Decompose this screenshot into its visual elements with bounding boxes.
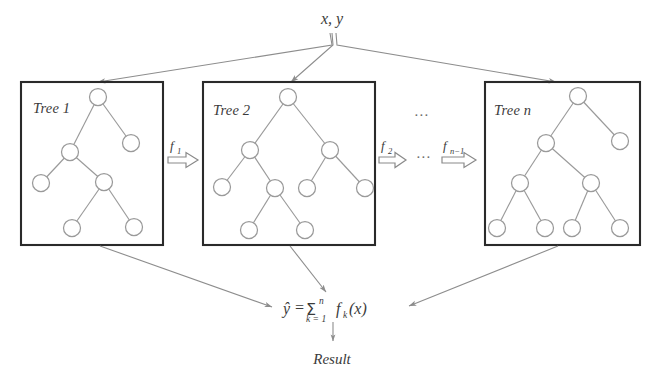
formula-term-argument: (x)	[349, 300, 367, 318]
fanin-lines	[100, 246, 558, 307]
flow-arrow-f2-subscript: 2	[388, 146, 393, 156]
tree-node	[537, 220, 554, 237]
tree-node	[267, 180, 284, 197]
tree-node	[583, 175, 600, 192]
flow-arrow-f2-base: f	[381, 138, 387, 153]
flow-arrow-fn-1: f n−1	[442, 138, 476, 168]
tree-2-label: Tree 2	[213, 102, 250, 118]
tree-node	[489, 220, 506, 237]
formula-sigma-upper: n	[319, 296, 324, 306]
formula-sigma-lower: k = 1	[306, 314, 326, 324]
formula-term-subscript: k	[343, 310, 348, 320]
tree-box-1[interactable]: Tree 1	[21, 82, 163, 245]
tree-node	[62, 144, 79, 161]
tree-node	[299, 180, 316, 197]
formula-lhs: ŷ	[281, 300, 291, 318]
tree-node	[123, 135, 140, 152]
result-label: Result	[312, 351, 351, 367]
tree-node	[280, 89, 297, 106]
tree-n-label: Tree n	[494, 102, 531, 118]
tree-node	[570, 88, 587, 105]
tree-node	[90, 89, 107, 106]
ellipsis-between-arrows: ...	[417, 145, 432, 161]
tree-node	[612, 133, 629, 150]
fanout-line-tree-1	[98, 33, 332, 82]
ellipsis-between-boxes: ...	[415, 103, 430, 119]
tree-node	[33, 175, 50, 192]
fanin-line-tree-2	[290, 246, 326, 292]
tree-node	[126, 219, 143, 236]
tree-node	[538, 135, 555, 152]
tree-node	[322, 142, 339, 159]
tree-node	[214, 179, 231, 196]
formula-equals: =	[294, 299, 305, 316]
flow-arrow-f1-base: f	[170, 138, 176, 153]
fanin-line-tree-n	[409, 246, 558, 306]
tree-node	[612, 220, 629, 237]
input-label: x, y	[320, 10, 344, 28]
output-formula: ŷ = Σ n k = 1 f k (x)	[281, 296, 367, 324]
tree-node	[96, 174, 113, 191]
tree-1-edges	[41, 97, 134, 228]
fanout-line-tree-2	[291, 33, 333, 82]
fanout-lines	[98, 33, 556, 82]
flow-arrow-f1-subscript: 1	[177, 146, 181, 156]
tree-node	[242, 142, 259, 159]
tree-node	[297, 222, 314, 239]
flow-arrow-f1: f 1	[168, 138, 198, 168]
fanin-line-tree-1	[100, 246, 272, 307]
block-arrow-icon	[168, 153, 198, 168]
xgboost-ensemble-diagram: x, y Tree 1	[0, 0, 660, 380]
flow-arrow-f2: f 2	[379, 138, 406, 168]
tree-node	[241, 222, 258, 239]
tree-node	[64, 220, 81, 237]
flow-arrow-fn-1-subscript: n−1	[450, 146, 464, 156]
tree-node	[357, 180, 374, 197]
tree-box-2[interactable]: Tree 2	[203, 82, 375, 245]
fanout-line-tree-n	[336, 33, 556, 82]
diagram-canvas: x, y Tree 1	[0, 0, 660, 380]
formula-term: f	[336, 300, 343, 318]
tree-node	[512, 175, 529, 192]
tree-box-n[interactable]: Tree n	[485, 82, 640, 245]
tree-node	[564, 220, 581, 237]
tree-1-label: Tree 1	[33, 100, 70, 116]
block-arrow-icon	[379, 153, 406, 168]
flow-arrow-fn-1-base: f	[443, 138, 449, 153]
